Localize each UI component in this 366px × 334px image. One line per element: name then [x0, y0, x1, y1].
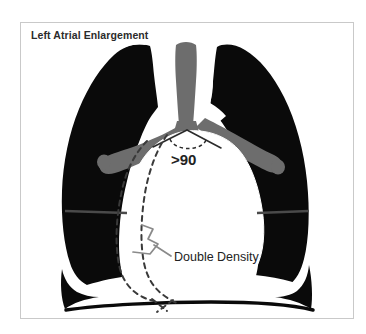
figure-root: Left Atrial Enlargement [0, 0, 366, 334]
page-title: Left Atrial Enlargement [31, 29, 148, 41]
left-bronchus-tip [271, 160, 285, 175]
carina-angle-label: >90 [171, 151, 196, 168]
right-bronchus-tip [97, 155, 111, 170]
trachea [175, 42, 197, 125]
chest-radiograph-diagram: >90 Double Density [21, 23, 353, 318]
double-density-label: Double Density [174, 250, 260, 264]
